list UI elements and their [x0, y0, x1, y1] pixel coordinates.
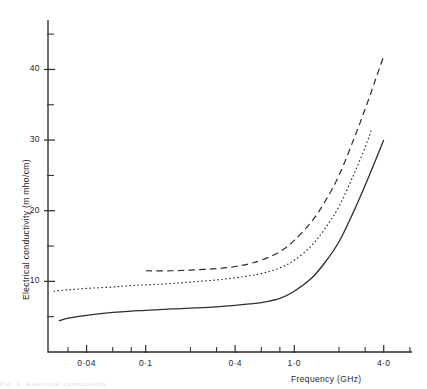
y-tick-label: 30 [18, 134, 40, 144]
curve-dashed [146, 56, 384, 271]
x-tick-label: 0·04 [70, 358, 104, 368]
curves-group [54, 56, 384, 321]
ticks-group [44, 34, 410, 353]
curve-dotted [54, 130, 372, 291]
x-tick-label: 0·4 [218, 358, 252, 368]
chart-figure: Electrical conductivity (m mho/cm) Frequ… [0, 0, 427, 389]
y-tick-label: 20 [18, 205, 40, 215]
axis-spines [48, 20, 412, 352]
plot-canvas [0, 0, 427, 389]
x-tick-label: 0·1 [129, 358, 163, 368]
curve-solid [59, 140, 384, 321]
y-tick-label: 10 [18, 275, 40, 285]
caption-fragment: Fig. 1. Electrical conductivity [0, 381, 427, 389]
x-tick-label: 4·0 [367, 358, 401, 368]
axes-group [48, 20, 412, 352]
y-tick-label: 40 [18, 63, 40, 73]
x-tick-label: 1·0 [277, 358, 311, 368]
